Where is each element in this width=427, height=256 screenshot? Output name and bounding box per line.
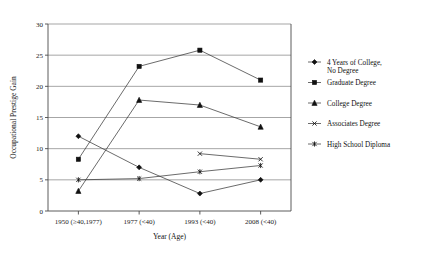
x-tick-label-0: 1950 (≥40,1977) <box>55 218 103 226</box>
data-point-1-0 <box>76 157 80 161</box>
data-point-1-1 <box>137 64 141 68</box>
legend-label-4[interactable]: High School Diploma <box>327 141 391 149</box>
y-tick-label-15: 15 <box>36 114 44 122</box>
data-point-1-2 <box>198 48 202 52</box>
legend-marker-diamond-icon <box>312 60 317 65</box>
data-point-0-1 <box>137 165 142 170</box>
legend-label-1[interactable]: Graduate Degree <box>327 79 376 87</box>
series-line-1 <box>78 50 260 159</box>
legend-label-0-line2[interactable]: No Degree <box>327 67 358 75</box>
y-tick-label-20: 20 <box>36 83 44 91</box>
line-chart: 0510152025301950 (≥40,1977)1977 (<40)199… <box>0 0 427 256</box>
legend-label-0[interactable]: 4 Years of College, <box>327 59 382 67</box>
x-tick-label-2: 1993 (<40) <box>184 218 216 226</box>
chart-container: 0510152025301950 (≥40,1977)1977 (<40)199… <box>0 0 427 256</box>
legend-marker-square-icon <box>312 80 316 84</box>
series-line-0 <box>78 136 260 193</box>
data-point-0-2 <box>197 191 202 196</box>
x-tick-label-3: 2008 (<40) <box>245 218 277 226</box>
y-tick-label-0: 0 <box>40 208 44 216</box>
legend-label-2[interactable]: College Degree <box>327 100 372 108</box>
data-point-2-3 <box>258 124 263 129</box>
data-point-0-0 <box>76 134 81 139</box>
legend-label-3[interactable]: Associates Degree <box>327 120 380 128</box>
y-tick-label-10: 10 <box>36 145 44 153</box>
y-axis-title: Occupational Prestige Gain <box>9 76 18 159</box>
series-line-3 <box>200 154 261 160</box>
y-tick-label-30: 30 <box>36 21 44 29</box>
data-point-0-3 <box>258 177 263 182</box>
series-line-4 <box>78 165 260 179</box>
x-tick-label-1: 1977 (<40) <box>123 218 155 226</box>
y-tick-label-25: 25 <box>36 52 44 60</box>
data-point-1-3 <box>259 78 263 82</box>
y-tick-label-5: 5 <box>40 176 44 184</box>
series-line-2 <box>78 100 260 191</box>
x-axis-title: Year (Age) <box>153 232 187 241</box>
data-point-2-0 <box>76 188 81 193</box>
